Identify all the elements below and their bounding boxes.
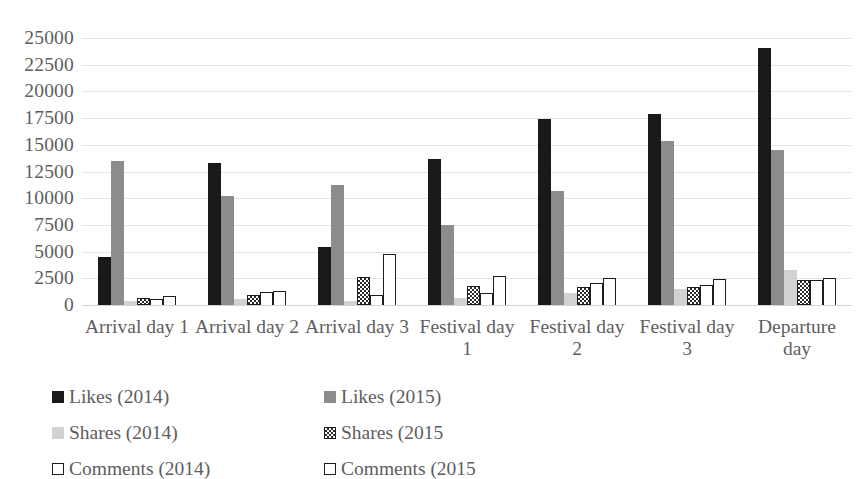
bar-group: [412, 38, 522, 305]
y-axis-tick-label: 25000: [24, 28, 74, 48]
legend-item[interactable]: Shares (2014): [52, 422, 324, 444]
bar[interactable]: [810, 280, 823, 305]
bar-group: [82, 38, 192, 305]
legend-item[interactable]: Shares (2015: [324, 422, 596, 444]
bar[interactable]: [687, 287, 700, 305]
bar[interactable]: [564, 293, 577, 305]
bar[interactable]: [784, 270, 797, 305]
y-axis-tick-label: 2500: [34, 269, 74, 289]
y-axis-tick-label: 22500: [24, 55, 74, 75]
bar[interactable]: [331, 185, 344, 305]
legend-item[interactable]: Comments (2014): [52, 458, 324, 479]
bar[interactable]: [234, 299, 247, 305]
bar[interactable]: [318, 247, 331, 305]
bar[interactable]: [370, 295, 383, 305]
bar[interactable]: [357, 277, 370, 305]
x-axis-label: Festival day 1: [412, 316, 522, 378]
legend-label: Comments (2015: [341, 458, 476, 479]
bar[interactable]: [124, 301, 137, 305]
x-axis-label: Arrival day 3: [302, 316, 412, 378]
bar[interactable]: [163, 296, 176, 305]
legend-item[interactable]: Likes (2015): [324, 386, 596, 408]
bar[interactable]: [797, 280, 810, 305]
comments-2014-swatch: [52, 463, 64, 475]
bar[interactable]: [493, 276, 506, 305]
bar[interactable]: [577, 287, 590, 305]
x-axis-label: Festival day 3: [632, 316, 742, 378]
bar[interactable]: [713, 279, 726, 305]
bar[interactable]: [590, 283, 603, 305]
plot-wrapper: 2500022500200001750015000125001000075005…: [0, 0, 863, 318]
bar[interactable]: [247, 295, 260, 305]
comments-2015-swatch: [324, 463, 336, 475]
legend-label: Likes (2015): [341, 386, 441, 408]
bar-group: [632, 38, 742, 305]
legend-label: Shares (2015: [341, 422, 443, 444]
y-axis: 2500022500200001750015000125001000075005…: [0, 0, 78, 318]
bar[interactable]: [674, 289, 687, 305]
bar[interactable]: [111, 161, 124, 305]
bar[interactable]: [467, 286, 480, 305]
bar[interactable]: [383, 254, 396, 305]
likes-2014-swatch: [52, 391, 64, 403]
legend-label: Likes (2014): [69, 386, 169, 408]
x-axis-category-labels: Arrival day 1Arrival day 2Arrival day 3F…: [82, 316, 852, 378]
plot-area: [82, 38, 852, 305]
bar-groups: [82, 38, 852, 305]
legend-label: Shares (2014): [69, 422, 178, 444]
bar[interactable]: [771, 150, 784, 305]
bar-group: [192, 38, 302, 305]
bar[interactable]: [221, 196, 234, 305]
bar[interactable]: [441, 225, 454, 305]
shares-2015-swatch: [324, 427, 336, 439]
bar[interactable]: [273, 291, 286, 305]
y-axis-tick-label: 0: [64, 295, 74, 315]
x-axis-label: Arrival day 2: [192, 316, 302, 378]
x-axis-label: Departure day: [742, 316, 852, 378]
y-axis-tick-label: 5000: [34, 242, 74, 262]
bar[interactable]: [480, 293, 493, 305]
legend-label: Comments (2014): [69, 458, 210, 479]
y-axis-tick-label: 7500: [34, 215, 74, 235]
bar[interactable]: [98, 257, 111, 305]
bar[interactable]: [428, 159, 441, 305]
y-axis-tick-label: 20000: [24, 82, 74, 102]
bar[interactable]: [823, 278, 836, 305]
bar-chart: 2500022500200001750015000125001000075005…: [0, 0, 863, 479]
bar-group: [522, 38, 632, 305]
legend-item[interactable]: Likes (2014): [52, 386, 324, 408]
y-axis-tick-label: 15000: [24, 135, 74, 155]
bar[interactable]: [454, 298, 467, 305]
bar[interactable]: [344, 301, 357, 305]
x-axis-label: Arrival day 1: [82, 316, 192, 378]
bar[interactable]: [150, 299, 163, 305]
bar[interactable]: [661, 141, 674, 305]
bar[interactable]: [538, 119, 551, 305]
likes-2015-swatch: [324, 391, 336, 403]
shares-2014-swatch: [52, 427, 64, 439]
bar-group: [742, 38, 852, 305]
legend-item[interactable]: Comments (2015: [324, 458, 596, 479]
bar[interactable]: [758, 48, 771, 305]
chart-legend: Likes (2014)Likes (2015)Shares (2014)Sha…: [52, 386, 852, 479]
y-axis-tick-label: 12500: [24, 162, 74, 182]
bar[interactable]: [603, 278, 616, 305]
bar[interactable]: [137, 298, 150, 305]
bar[interactable]: [551, 191, 564, 305]
bar[interactable]: [700, 285, 713, 305]
bar[interactable]: [208, 163, 221, 305]
x-axis-label: Festival day 2: [522, 316, 632, 378]
y-axis-tick-label: 10000: [24, 188, 74, 208]
y-axis-tick-label: 17500: [24, 108, 74, 128]
axis-baseline: [82, 305, 852, 306]
bar[interactable]: [648, 114, 661, 305]
bar[interactable]: [260, 292, 273, 305]
bar-group: [302, 38, 412, 305]
